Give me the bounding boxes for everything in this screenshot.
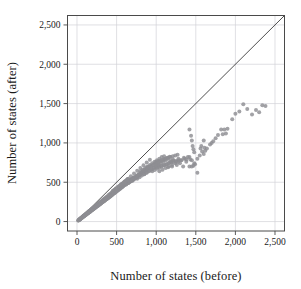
data-point	[195, 171, 199, 175]
data-point	[257, 110, 261, 114]
data-point	[202, 152, 206, 156]
y-axis-title: Number of states (after)	[5, 62, 19, 184]
y-tick-label: 2,500	[39, 20, 61, 30]
data-point	[162, 154, 166, 158]
data-point	[263, 104, 267, 108]
data-point	[176, 153, 180, 157]
y-tick-label: 0	[56, 217, 61, 227]
data-point	[224, 131, 228, 135]
data-point	[225, 127, 229, 131]
x-tick-label: 2,000	[225, 237, 247, 247]
data-point	[171, 157, 175, 161]
data-point	[135, 169, 139, 173]
data-point	[214, 136, 218, 140]
data-point	[178, 161, 182, 165]
data-point	[202, 139, 206, 143]
data-point	[170, 165, 174, 169]
x-tick-labels-group: 05001,0001,5002,0002,500	[75, 237, 286, 247]
data-point	[233, 112, 237, 116]
data-point	[245, 107, 249, 111]
data-point	[193, 162, 197, 166]
data-point	[189, 134, 193, 138]
y-tick-labels-group: 05001,0001,5002,0002,500	[39, 20, 61, 227]
data-point	[187, 128, 191, 132]
data-point	[190, 139, 194, 143]
data-point	[132, 172, 136, 176]
y-tick-label: 1,500	[39, 99, 61, 109]
scatter-plot-figure: 05001,0001,5002,0002,500 05001,0001,5002…	[0, 0, 301, 289]
data-point	[138, 166, 142, 170]
identity-reference-line	[77, 16, 284, 222]
x-tick-label: 500	[109, 237, 124, 247]
x-tick-label: 1,500	[185, 237, 207, 247]
y-tick-label: 500	[46, 178, 61, 188]
data-point	[192, 150, 196, 154]
chart-canvas: 05001,0001,5002,0002,500 05001,0001,5002…	[0, 0, 301, 289]
data-point	[205, 146, 209, 150]
x-axis-title: Number of states (before)	[110, 269, 241, 283]
data-points-group	[76, 102, 267, 222]
x-tick-label: 1,000	[146, 237, 168, 247]
data-point	[129, 174, 133, 178]
data-point	[237, 109, 241, 113]
y-tick-label: 1,000	[39, 138, 61, 148]
data-point	[198, 154, 202, 158]
data-point	[241, 102, 245, 106]
data-point	[181, 165, 185, 169]
data-point	[148, 158, 152, 162]
data-point	[230, 117, 234, 121]
data-point	[166, 165, 170, 169]
data-point	[188, 157, 192, 161]
data-point	[208, 142, 212, 146]
data-point	[125, 178, 129, 182]
y-tick-label: 2,000	[39, 60, 61, 70]
data-point	[211, 139, 215, 143]
data-point	[184, 160, 188, 164]
x-tick-label: 2,500	[264, 237, 286, 247]
data-point	[250, 113, 254, 117]
x-tick-label: 0	[75, 237, 80, 247]
data-point	[254, 108, 258, 112]
data-point	[147, 165, 151, 169]
data-point	[142, 163, 146, 167]
data-point	[145, 161, 149, 165]
